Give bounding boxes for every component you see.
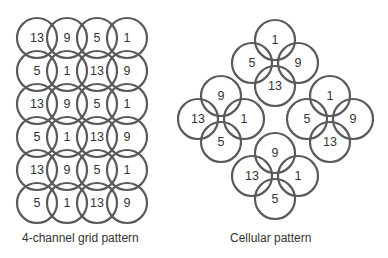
channel-label: 9 bbox=[64, 97, 71, 111]
channel-label: 5 bbox=[34, 64, 41, 78]
channel-label: 13 bbox=[268, 79, 282, 93]
cellular-pattern: 1 5 9 13 9 13 1 5 1 5 9 13 9 13 1 5 bbox=[178, 20, 373, 219]
channel-label: 9 bbox=[124, 130, 131, 144]
channel-label: 13 bbox=[191, 112, 205, 126]
channel-label: 1 bbox=[64, 130, 71, 144]
channel-label: 1 bbox=[327, 89, 334, 103]
channel-label: 5 bbox=[94, 31, 101, 45]
channel-label: 9 bbox=[64, 31, 71, 45]
channel-label: 13 bbox=[30, 97, 44, 111]
channel-label: 5 bbox=[34, 196, 41, 210]
channel-label: 13 bbox=[90, 64, 104, 78]
channel-label: 5 bbox=[94, 97, 101, 111]
channel-label: 13 bbox=[30, 31, 44, 45]
channel-label: 9 bbox=[64, 163, 71, 177]
cell-cluster-right: 1 5 9 13 bbox=[287, 76, 373, 162]
channel-label: 1 bbox=[272, 33, 279, 47]
channel-label: 13 bbox=[245, 169, 259, 183]
channel-label: 5 bbox=[272, 192, 279, 206]
channel-label: 13 bbox=[90, 130, 104, 144]
channel-label: 1 bbox=[64, 196, 71, 210]
channel-label: 9 bbox=[124, 196, 131, 210]
channel-label: 1 bbox=[64, 64, 71, 78]
channel-label: 5 bbox=[94, 163, 101, 177]
channel-label: 5 bbox=[34, 130, 41, 144]
diagram-canvas: 13 9 5 1 5 1 13 9 13 9 5 1 5 1 13 9 13 9… bbox=[0, 0, 388, 258]
channel-label: 9 bbox=[350, 112, 357, 126]
channel-label: 9 bbox=[218, 89, 225, 103]
channel-label: 5 bbox=[218, 135, 225, 149]
grid-pattern-caption: 4-channel grid pattern bbox=[22, 231, 139, 245]
channel-label: 13 bbox=[90, 196, 104, 210]
channel-label: 5 bbox=[304, 112, 311, 126]
cell-cluster-top: 1 5 9 13 bbox=[232, 20, 318, 106]
channel-label: 1 bbox=[241, 112, 248, 126]
grid-pattern: 13 9 5 1 5 1 13 9 13 9 5 1 5 1 13 9 13 9… bbox=[17, 18, 147, 223]
cellular-pattern-caption: Cellular pattern bbox=[230, 231, 311, 245]
channel-label: 1 bbox=[295, 169, 302, 183]
channel-label: 13 bbox=[323, 135, 337, 149]
channel-label: 13 bbox=[30, 163, 44, 177]
channel-label: 9 bbox=[124, 64, 131, 78]
channel-label: 1 bbox=[124, 31, 131, 45]
cell-cluster-left: 9 13 1 5 bbox=[178, 76, 264, 162]
cell-cluster-bottom: 9 13 1 5 bbox=[232, 133, 318, 219]
channel-label: 1 bbox=[124, 163, 131, 177]
channel-label: 9 bbox=[272, 146, 279, 160]
channel-label: 1 bbox=[124, 97, 131, 111]
channel-label: 9 bbox=[295, 56, 302, 70]
channel-label: 5 bbox=[249, 56, 256, 70]
